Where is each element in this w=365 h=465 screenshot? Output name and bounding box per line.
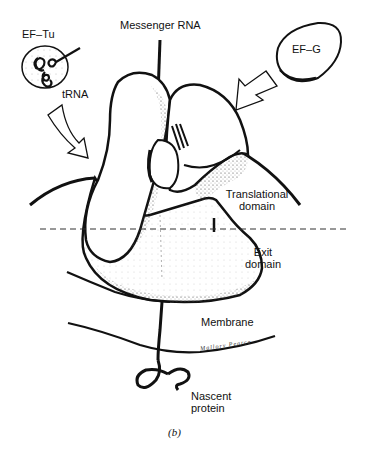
label-exit-domain-line1: Exit [243, 246, 283, 258]
label-nascent-protein-line2: protein [191, 402, 231, 414]
label-translational-domain-line1: Translational [222, 188, 292, 200]
label-translational-domain: Translational domain [222, 188, 292, 212]
label-exit-domain: Exit domain [243, 246, 283, 270]
label-nascent-protein-line1: Nascent [191, 390, 231, 402]
ef-tu-arrow-icon [48, 105, 88, 158]
label-exit-domain-line2: domain [243, 258, 283, 270]
label-ef-g: EF–G [292, 43, 321, 55]
label-translational-domain-line2: domain [222, 200, 292, 212]
label-nascent-protein: Nascent protein [191, 390, 231, 414]
diagram-artwork [0, 0, 365, 465]
ef-tu-complex [22, 46, 80, 88]
label-trna: tRNA [62, 88, 88, 100]
ribosome-diagram: EF–Tu tRNA Messenger RNA EF–G Translatio… [0, 0, 365, 465]
label-membrane: Membrane [201, 316, 254, 328]
ef-g-arrow-icon [236, 71, 277, 110]
label-messenger-rna: Messenger RNA [120, 19, 201, 31]
figure-caption: (b) [168, 426, 181, 438]
label-ef-tu: EF–Tu [22, 28, 55, 40]
